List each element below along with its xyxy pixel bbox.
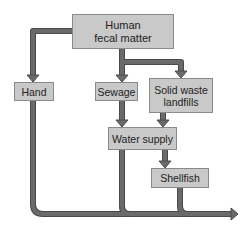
arrowhead-shellfish <box>159 161 171 168</box>
node-label: Human <box>94 19 151 32</box>
arrow-hand-to-output <box>33 101 232 214</box>
arrowhead-hand <box>27 75 39 82</box>
node-shellfish: Shellfish <box>151 168 209 188</box>
node-label: landfills <box>154 96 208 108</box>
node-label: fecal matter <box>94 32 151 45</box>
node-label: Hand <box>21 86 46 98</box>
node-water-supply: Water supply <box>108 127 177 150</box>
arrowhead-solid-water <box>157 120 169 127</box>
arrowhead-sewage <box>116 75 128 82</box>
node-sewage: Sewage <box>95 82 138 101</box>
fecal-transmission-diagram: Human fecal matter Hand Sewage Solid was… <box>0 0 250 234</box>
node-solid-waste-landfills: Solid waste landfills <box>149 78 213 113</box>
node-human-fecal-matter: Human fecal matter <box>72 14 174 49</box>
node-label: Solid waste <box>154 84 208 96</box>
node-label: Shellfish <box>160 172 200 184</box>
arrowhead-output <box>231 208 238 220</box>
arrowhead-sewage-water <box>116 120 128 127</box>
arrowhead-solid <box>175 71 187 78</box>
node-hand: Hand <box>14 82 54 101</box>
node-label: Sewage <box>98 86 136 98</box>
node-label: Water supply <box>112 133 173 145</box>
arrow-human-to-hand <box>33 31 72 76</box>
